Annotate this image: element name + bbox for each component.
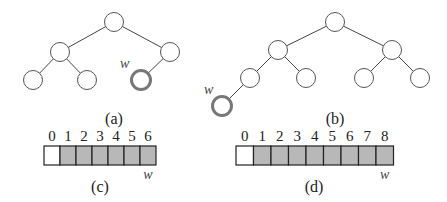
array-index-label: 6 — [144, 128, 152, 144]
array-index-label: 5 — [329, 128, 337, 144]
array-index-label: 1 — [64, 128, 72, 144]
array-index-label: 8 — [381, 128, 389, 144]
tree-node — [241, 69, 260, 88]
array-index-label: 6 — [346, 128, 354, 144]
w-label: w — [204, 82, 214, 97]
array-index-label: 5 — [128, 128, 136, 144]
array-cell-filled — [324, 146, 342, 165]
tree-node — [78, 71, 97, 90]
array-cell-filled — [359, 146, 377, 165]
tree-node — [161, 43, 180, 62]
array-caption: (d) — [305, 178, 324, 196]
array-index-label: 4 — [112, 128, 120, 144]
array-cell-filled — [341, 146, 359, 165]
array-index-label: 7 — [364, 128, 372, 144]
array-cell-filled — [306, 146, 324, 165]
array-cell-filled — [254, 146, 272, 165]
tree-node — [411, 69, 430, 88]
tree-node — [269, 41, 288, 60]
array-cell-empty — [44, 146, 60, 165]
tree-node — [51, 43, 70, 62]
array-cell-filled — [289, 146, 307, 165]
array-index-label: 0 — [241, 128, 249, 144]
array-cell-filled — [60, 146, 76, 165]
tree-node — [383, 41, 402, 60]
w-label: w — [380, 167, 390, 182]
array-index-label: 3 — [96, 128, 104, 144]
array-cell-empty — [236, 146, 254, 165]
tree-caption: (a) — [105, 110, 123, 128]
tree-node — [297, 69, 316, 88]
highlighted-node-w — [213, 97, 232, 116]
array-index-label: 3 — [294, 128, 302, 144]
array-cell-filled — [92, 146, 108, 165]
array-index-label: 2 — [276, 128, 284, 144]
array-index-label: 1 — [259, 128, 267, 144]
highlighted-node-w — [132, 71, 151, 90]
w-label: w — [143, 167, 153, 182]
array-cell-filled — [376, 146, 394, 165]
array-caption: (c) — [91, 178, 109, 196]
array-cell-filled — [271, 146, 289, 165]
w-label: w — [120, 56, 130, 71]
tree-caption: (b) — [326, 110, 345, 128]
tree-node — [355, 69, 374, 88]
array-index-label: 0 — [48, 128, 56, 144]
array-cell-filled — [76, 146, 92, 165]
array-index-label: 4 — [311, 128, 319, 144]
tree-node — [326, 13, 345, 32]
array-cell-filled — [124, 146, 140, 165]
tree-node — [105, 13, 124, 32]
array-cell-filled — [140, 146, 156, 165]
array-index-label: 2 — [80, 128, 88, 144]
heap-diagram: w(a)w(b)0123456w(c)012345678w(d) — [0, 0, 447, 202]
array-cell-filled — [108, 146, 124, 165]
tree-node — [24, 71, 43, 90]
